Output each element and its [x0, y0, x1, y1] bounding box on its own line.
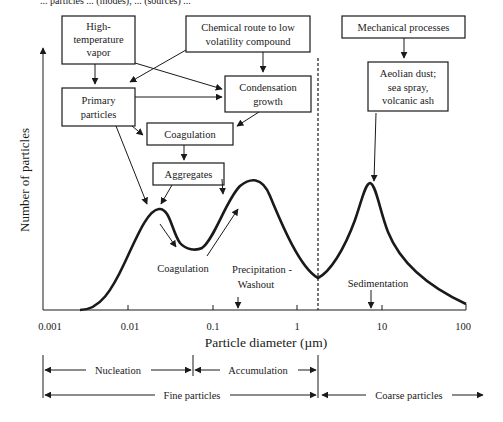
- svg-text:1: 1: [294, 321, 299, 332]
- svg-text:temperature: temperature: [73, 34, 123, 45]
- svg-text:Chemical route to low: Chemical route to low: [201, 22, 295, 33]
- svg-text:sea spray,: sea spray,: [388, 82, 429, 93]
- x-axis-label: Particle diameter (µm): [205, 335, 327, 350]
- box-aeolian-dust: Aeolian dust; sea spray, volcanic ash: [368, 62, 448, 111]
- range-nucleation: Nucleation: [95, 365, 142, 376]
- box-mechanical-processes: Mechanical processes: [342, 16, 465, 38]
- svg-text:Mechanical processes: Mechanical processes: [358, 22, 450, 33]
- precipitation-label-2: Washout: [238, 279, 275, 290]
- box-condensation-growth: Condensation growth: [225, 76, 311, 112]
- box-chemical-route: Chemical route to low volatility compoun…: [186, 16, 310, 52]
- svg-text:vapor: vapor: [87, 47, 111, 58]
- svg-text:Condensation: Condensation: [239, 82, 297, 93]
- range-fine-particles: Fine particles: [164, 390, 221, 401]
- svg-text:100: 100: [455, 321, 471, 332]
- svg-text:Primary: Primary: [82, 95, 117, 106]
- aerosol-diagram: ... particles ... (modes), ... (sources)…: [0, 0, 503, 422]
- svg-text:0.1: 0.1: [206, 321, 219, 332]
- svg-text:Aggregates: Aggregates: [165, 169, 213, 180]
- svg-text:High-: High-: [86, 21, 111, 32]
- precipitation-label-1: Precipitation -: [232, 264, 292, 275]
- range-accumulation: Accumulation: [228, 365, 288, 376]
- box-primary-particles: Primary particles: [62, 88, 135, 126]
- svg-text:Aeolian dust;: Aeolian dust;: [380, 68, 436, 79]
- box-aggregates: Aggregates: [153, 163, 224, 185]
- x-axis-ticks: [128, 305, 382, 310]
- y-axis-label: Number of particles: [17, 128, 32, 232]
- svg-text:volatility compound: volatility compound: [206, 36, 292, 47]
- svg-text:growth: growth: [253, 96, 283, 107]
- box-coagulation: Coagulation: [147, 123, 233, 145]
- svg-text:0.01: 0.01: [121, 321, 139, 332]
- svg-text:particles: particles: [81, 109, 117, 120]
- svg-text:0.001: 0.001: [38, 321, 62, 332]
- range-brackets: Nucleation Accumulation Fine particles C…: [43, 355, 483, 401]
- header-fragment: ... particles ... (modes), ... (sources)…: [40, 0, 191, 7]
- svg-text:10: 10: [377, 321, 388, 332]
- coagulation-curve-label: Coagulation: [157, 263, 209, 274]
- svg-text:volcanic ash: volcanic ash: [382, 95, 435, 106]
- sedimentation-label: Sedimentation: [348, 278, 409, 289]
- distribution-curve: [80, 180, 466, 310]
- svg-text:Coagulation: Coagulation: [164, 129, 216, 140]
- range-coarse-particles: Coarse particles: [375, 390, 442, 401]
- x-tick-labels: 0.001 0.01 0.1 1 10 100: [38, 321, 471, 332]
- box-high-temp-vapor: High- temperature vapor: [62, 16, 135, 64]
